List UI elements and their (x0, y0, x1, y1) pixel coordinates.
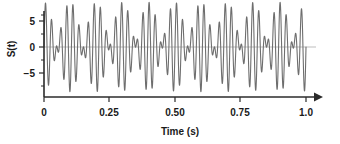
x-tick-label-0.50: 0.50 (165, 107, 185, 118)
x-axis-title: Time (s) (161, 126, 199, 137)
chart-canvas: 5 0 −5 S(t) 0 0.25 0.50 0.75 1.0 Time (s… (0, 0, 340, 144)
y-tick-label-5: 5 (29, 16, 35, 27)
y-tick-label-minus-5: −5 (24, 68, 36, 79)
y-axis-title: S(t) (6, 41, 17, 58)
signal-plot-figure: 5 0 −5 S(t) 0 0.25 0.50 0.75 1.0 Time (s… (0, 0, 340, 144)
signal-waveform (44, 2, 306, 91)
x-tick-label-0.25: 0.25 (99, 107, 119, 118)
x-axis-arrow-icon (314, 93, 323, 102)
x-tick-label-0: 0 (41, 107, 47, 118)
x-tick-label-1.0: 1.0 (299, 107, 313, 118)
y-tick-label-0: 0 (29, 42, 35, 53)
x-tick-label-0.75: 0.75 (230, 107, 250, 118)
